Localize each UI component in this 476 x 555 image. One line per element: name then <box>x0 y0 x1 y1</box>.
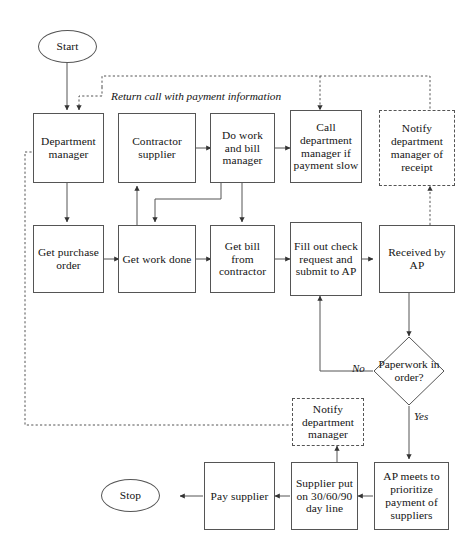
node-notify-department-manager-label: Notify department manager <box>293 403 363 441</box>
node-ap-meets-to-prioritize-label: AP meets to prioritize payment of suppli… <box>375 470 448 521</box>
node-get-work-done[interactable]: Get work done <box>118 225 196 293</box>
decision-yes-label: Yes <box>414 410 428 422</box>
node-call-department-manager[interactable]: Call department manager if payment slow <box>290 110 362 183</box>
node-notify-department-manager-of-receipt[interactable]: Notify department manager of receipt <box>379 110 455 186</box>
node-pay-supplier-label: Pay supplier <box>209 490 271 503</box>
node-notify-department-manager-of-receipt-label: Notify department manager of receipt <box>380 122 454 173</box>
node-supplier-put-on-day-line-label: Supplier put on 30/60/90 day line <box>292 477 357 515</box>
decision-paperwork-in-order[interactable]: Paperwork in order? <box>373 336 445 406</box>
node-pay-supplier[interactable]: Pay supplier <box>204 462 275 530</box>
node-get-bill-from-contractor[interactable]: Get bill from contractor <box>210 225 275 293</box>
node-department-manager-label: Department manager <box>34 135 103 161</box>
node-get-bill-from-contractor-label: Get bill from contractor <box>211 240 274 278</box>
node-fill-out-check-request-label: Fill out check request and submit to AP <box>291 240 361 278</box>
node-call-department-manager-label: Call department manager if payment slow <box>291 121 361 172</box>
start-terminal[interactable]: Start <box>38 30 97 63</box>
node-supplier-put-on-day-line[interactable]: Supplier put on 30/60/90 day line <box>291 462 358 530</box>
node-received-by-ap-label: Received by AP <box>380 246 454 272</box>
node-get-work-done-label: Get work done <box>121 253 194 266</box>
node-do-work-and-bill-manager-label: Do work and bill manager <box>211 129 274 167</box>
node-department-manager[interactable]: Department manager <box>33 113 104 183</box>
decision-label: Paperwork in order? <box>373 336 445 406</box>
edge-label-return-call: Return call with payment information <box>108 90 284 102</box>
node-fill-out-check-request[interactable]: Fill out check request and submit to AP <box>290 222 362 296</box>
node-get-purchase-order[interactable]: Get purchase order <box>33 225 104 293</box>
node-received-by-ap[interactable]: Received by AP <box>379 225 455 293</box>
decision-no-label: No <box>352 362 365 374</box>
node-contractor-supplier-label: Contractor supplier <box>119 135 195 161</box>
node-get-purchase-order-label: Get purchase order <box>34 246 103 272</box>
start-terminal-label: Start <box>54 40 80 53</box>
node-contractor-supplier[interactable]: Contractor supplier <box>118 113 196 183</box>
node-do-work-and-bill-manager[interactable]: Do work and bill manager <box>210 113 275 183</box>
stop-terminal[interactable]: Stop <box>101 479 160 512</box>
flowchart-canvas: Start Stop Department manager Contractor… <box>0 0 476 555</box>
node-notify-department-manager[interactable]: Notify department manager <box>292 398 364 446</box>
stop-terminal-label: Stop <box>118 489 143 502</box>
node-ap-meets-to-prioritize[interactable]: AP meets to prioritize payment of suppli… <box>374 462 449 530</box>
